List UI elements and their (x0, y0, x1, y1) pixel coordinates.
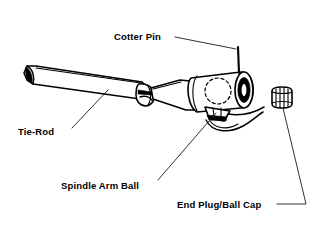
end-plug-body (272, 87, 292, 108)
boot-curve-inner (210, 121, 238, 128)
leader-spindle-arm-ball (158, 113, 216, 180)
tie-rod-shaft (24, 66, 150, 99)
diagram-canvas: Cotter Pin Tie-Rod Spindle Arm Ball End … (0, 0, 328, 227)
socket-housing-group (188, 72, 253, 112)
leader-end-plug (277, 108, 306, 204)
label-end-plug-ball-cap: End Plug/Ball Cap (177, 199, 261, 210)
socket-bore-inner (241, 83, 247, 97)
label-cotter-pin: Cotter Pin (114, 31, 161, 42)
cotter-pin-group (238, 47, 239, 73)
end-plug-group (272, 87, 292, 108)
leader-cotter-pin (175, 37, 236, 49)
label-spindle-arm-ball: Spindle Arm Ball (61, 180, 139, 191)
label-tie-rod: Tie-Rod (18, 126, 54, 137)
tie-rod-shaft-group (24, 66, 150, 99)
tie-rod-diagram: Cotter Pin Tie-Rod Spindle Arm Ball End … (0, 0, 328, 227)
leader-tie-rod (72, 90, 108, 128)
cotter-pin-shaft (238, 47, 239, 73)
